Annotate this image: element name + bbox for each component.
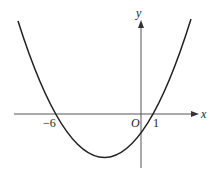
tick-label-1: 1 (153, 116, 159, 130)
y-axis-label: y (135, 6, 142, 20)
y-axis-arrow-icon (138, 20, 144, 28)
x-axis-arrow-icon (191, 111, 199, 117)
x-axis-label: x (200, 107, 207, 121)
parabola-graph: x y O −6 1 (0, 0, 211, 176)
origin-label: O (131, 116, 140, 130)
parabola-curve (18, 19, 191, 158)
tick-label-neg6: −6 (43, 116, 56, 130)
